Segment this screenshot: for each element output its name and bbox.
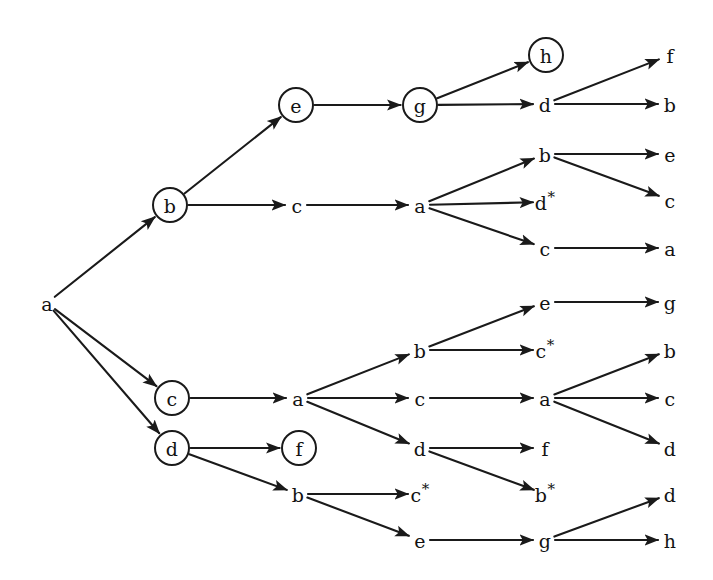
tree-edge — [554, 354, 658, 394]
tree-node-n35-label: d — [664, 439, 676, 458]
tree-node-n17-label: d — [539, 95, 551, 114]
tree-diagram-canvas: abcdecafbgabcdc*ehdbd*cec*afb*gfbecagbcd… — [0, 0, 713, 580]
tree-node-n27-label: f — [666, 46, 673, 65]
tree-node-n12-label: c — [415, 389, 426, 408]
tree-node-n9-label: g — [414, 96, 426, 115]
tree-node-n14-label: c* — [410, 485, 429, 504]
tree-node-n28-label: b — [664, 95, 676, 114]
tree-edge — [429, 159, 534, 202]
tree-edges-layer — [0, 0, 713, 580]
tree-node-n0-label: a — [41, 294, 53, 313]
tree-node-n21-label: e — [539, 293, 550, 312]
tree-node-n4-label: e — [290, 96, 301, 115]
tree-node-n15-label: e — [414, 531, 425, 550]
tree-node-n34-label: c — [665, 389, 676, 408]
tree-edge — [554, 402, 659, 444]
tree-node-n2-label: c — [167, 389, 178, 408]
tree-node-n19-label: d* — [535, 193, 556, 212]
tree-edge — [554, 59, 659, 100]
tree-node-n5-label: c — [292, 196, 303, 215]
tree-edge — [184, 117, 280, 193]
tree-node-n22-label: c* — [535, 341, 554, 360]
tree-node-n1-label: b — [164, 196, 176, 215]
tree-node-n37-label: h — [664, 531, 676, 550]
tree-edge — [429, 306, 533, 346]
tree-edge — [439, 104, 534, 105]
node-star-marker: * — [548, 188, 556, 206]
tree-edge — [54, 311, 160, 434]
edge-group — [54, 59, 659, 540]
tree-node-n26-label: g — [539, 531, 551, 550]
tree-node-n13-label: d — [414, 439, 426, 458]
node-star-marker: * — [548, 480, 556, 498]
tree-node-n20-label: c — [540, 239, 551, 258]
node-star-marker: * — [547, 336, 555, 354]
tree-node-n10-label: a — [414, 196, 426, 215]
tree-node-n29-label: e — [664, 145, 675, 164]
node-star-marker: * — [422, 480, 430, 498]
tree-node-n33-label: b — [664, 341, 676, 360]
tree-node-n24-label: f — [541, 439, 548, 458]
tree-node-n23-label: a — [539, 389, 551, 408]
tree-node-n36-label: d — [664, 485, 676, 504]
tree-node-n18-label: b — [539, 145, 551, 164]
tree-node-n11-label: b — [414, 341, 426, 360]
tree-edge — [430, 202, 533, 204]
tree-edge — [437, 62, 528, 98]
tree-node-n31-label: a — [664, 239, 676, 258]
tree-edge — [429, 208, 533, 244]
tree-node-n3-label: d — [166, 439, 178, 458]
tree-node-n8-label: b — [292, 485, 304, 504]
tree-edge — [189, 454, 286, 490]
node-circle-group — [153, 38, 563, 465]
tree-node-n30-label: c — [665, 191, 676, 210]
tree-node-n25-label: b* — [535, 485, 556, 504]
tree-node-n7-label: f — [295, 439, 302, 458]
tree-node-n32-label: g — [664, 293, 676, 312]
tree-node-n16-label: h — [540, 46, 552, 65]
tree-edge — [554, 157, 658, 195]
tree-edge — [554, 498, 658, 536]
tree-edge — [55, 309, 157, 386]
tree-edge — [307, 354, 409, 394]
tree-edge — [307, 402, 409, 444]
tree-edge — [429, 451, 533, 489]
tree-node-n6-label: a — [292, 389, 304, 408]
tree-edge — [307, 498, 408, 536]
tree-edge — [55, 217, 155, 297]
